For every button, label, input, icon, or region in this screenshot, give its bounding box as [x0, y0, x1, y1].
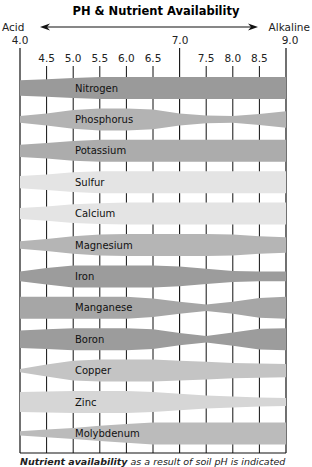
band-label-phosphorus: Phosphorus — [75, 114, 133, 125]
minor-tick-label: 6.0 — [118, 52, 135, 64]
band-calcium — [20, 203, 286, 225]
band-label-boron: Boron — [75, 334, 104, 345]
band-potassium — [20, 140, 286, 162]
band-label-manganese: Manganese — [75, 302, 132, 313]
minor-tick-label: 4.5 — [38, 52, 55, 64]
minor-tick-label: 5.5 — [91, 52, 108, 64]
band-magnesium — [20, 234, 286, 256]
band-zinc — [20, 391, 286, 413]
band-label-calcium: Calcium — [75, 208, 115, 219]
band-label-sulfur: Sulfur — [75, 177, 105, 188]
tick-4-0: 4.0 — [12, 34, 29, 46]
chart-caption: Nutrient availability as a result of soi… — [20, 456, 285, 467]
band-iron — [20, 265, 286, 287]
caption-rest: as a result of soil pH is indicated — [128, 456, 286, 467]
band-label-nitrogen: Nitrogen — [75, 83, 118, 94]
tick-9-0: 9.0 — [282, 34, 299, 46]
nutrient-labels: NitrogenPhosphorusPotassiumSulfurCalcium… — [75, 83, 140, 439]
tick-7-0: 7.0 — [172, 34, 189, 46]
chart-title: PH & Nutrient Availability — [73, 4, 240, 18]
acid-alkaline-arrow — [40, 24, 258, 31]
band-nitrogen — [20, 77, 286, 99]
band-molybdenum — [20, 422, 286, 444]
band-label-iron: Iron — [75, 271, 94, 282]
band-phosphorus — [20, 108, 286, 130]
band-label-molybdenum: Molybdenum — [75, 428, 140, 439]
band-label-potassium: Potassium — [75, 145, 126, 156]
band-manganese — [20, 297, 286, 319]
band-label-copper: Copper — [75, 365, 112, 376]
minor-tick-label: 8.5 — [251, 52, 268, 64]
band-label-magnesium: Magnesium — [75, 240, 133, 251]
minor-tick-label: 5.0 — [65, 52, 82, 64]
alkaline-label: Alkaline — [269, 21, 310, 33]
band-boron — [20, 328, 286, 350]
band-sulfur — [20, 171, 286, 193]
minor-tick-label: 6.5 — [145, 52, 162, 64]
minor-tick-label: 7.5 — [198, 52, 215, 64]
caption-bold: Nutrient availability — [20, 456, 128, 467]
minor-tick-labels: 4.55.05.56.06.57.58.08.5 — [38, 52, 268, 64]
band-copper — [20, 360, 286, 382]
band-label-zinc: Zinc — [75, 397, 96, 408]
minor-tick-label: 8.0 — [224, 52, 241, 64]
acid-label: Acid — [2, 21, 24, 33]
